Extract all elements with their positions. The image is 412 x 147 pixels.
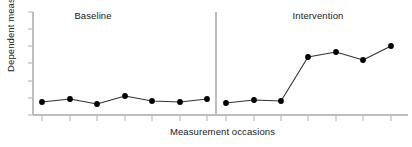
single-case-design-chart: Baseline Intervention Measurement occasi… [0, 0, 412, 147]
y-axis-ticks [28, 12, 33, 115]
data-point [94, 101, 100, 107]
chart-plot-area [0, 0, 412, 147]
y-axis-label: Dependent measure [5, 0, 16, 83]
data-point [360, 57, 366, 63]
data-point [278, 98, 284, 104]
data-point [388, 43, 394, 49]
phase-label-intervention: Intervention [224, 10, 412, 21]
data-point [39, 99, 45, 105]
data-point [67, 96, 73, 102]
x-axis-label: Measurement occasions [33, 126, 412, 137]
intervention-series-markers [223, 43, 394, 106]
data-point [333, 49, 339, 55]
data-point [122, 93, 128, 99]
data-point [223, 100, 229, 106]
data-point [251, 97, 257, 103]
data-point [204, 96, 210, 102]
data-point [149, 98, 155, 104]
phase-label-baseline: Baseline [0, 10, 186, 21]
data-point [305, 54, 311, 60]
x-axis-ticks [42, 115, 391, 121]
y-axis-label-container: Dependent measure [5, 0, 19, 83]
data-point [177, 99, 183, 105]
